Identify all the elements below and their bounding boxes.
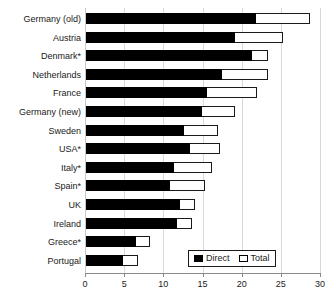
gridline-25 — [281, 8, 282, 273]
bar-direct-spain — [85, 180, 170, 191]
bar-direct-germany-new — [85, 106, 202, 117]
bar-row — [85, 180, 320, 191]
x-tick-label-15: 15 — [197, 279, 207, 290]
category-label-france: France — [53, 88, 81, 99]
bar-direct-austria — [85, 32, 235, 43]
category-label-denmark: Denmark* — [41, 51, 81, 62]
bar-row — [85, 106, 320, 117]
bar-row — [85, 13, 320, 24]
x-tick-label-30: 30 — [315, 279, 325, 290]
bar-row — [85, 162, 320, 173]
x-tick-label-0: 0 — [82, 279, 87, 290]
x-tick-label-10: 10 — [158, 279, 168, 290]
category-label-austria: Austria — [53, 33, 81, 44]
gridline-20 — [242, 8, 243, 273]
bar-direct-netherlands — [85, 69, 222, 80]
plot-area — [85, 8, 320, 273]
x-tick-mark-5 — [124, 273, 125, 277]
gridline-15 — [203, 8, 204, 273]
x-tick-mark-10 — [163, 273, 164, 277]
bar-row — [85, 143, 320, 154]
category-label-greece: Greece* — [48, 237, 81, 248]
y-axis-line — [85, 8, 86, 273]
bar-direct-germany-old — [85, 13, 256, 24]
category-label-spain: Spain* — [54, 181, 81, 192]
category-label-usa: USA* — [59, 144, 81, 155]
x-tick-mark-0 — [85, 273, 86, 277]
legend-label-total: Total — [251, 253, 270, 264]
gridline-30 — [320, 8, 321, 273]
horizontal-bar-chart: 051015202530 Germany (old)AustriaDenmark… — [0, 0, 334, 305]
category-label-netherlands: Netherlands — [32, 70, 81, 81]
x-tick-mark-20 — [242, 273, 243, 277]
bar-direct-portugal — [85, 255, 123, 266]
category-label-portugal: Portugal — [47, 256, 81, 267]
bar-direct-sweden — [85, 125, 184, 136]
bar-direct-ireland — [85, 218, 177, 229]
bar-direct-greece — [85, 236, 136, 247]
bar-direct-uk — [85, 199, 180, 210]
bar-row — [85, 69, 320, 80]
category-label-uk: UK — [68, 200, 81, 211]
gridline-10 — [163, 8, 164, 273]
bar-direct-usa — [85, 143, 190, 154]
bar-row — [85, 199, 320, 210]
bar-row — [85, 125, 320, 136]
bar-direct-france — [85, 87, 207, 98]
bar-row — [85, 236, 320, 247]
bar-direct-italy — [85, 162, 174, 173]
legend-label-direct: Direct — [206, 253, 230, 264]
legend-item-direct: Direct — [194, 253, 230, 264]
bar-row — [85, 32, 320, 43]
bar-direct-denmark — [85, 50, 252, 61]
chart-legend: Direct Total — [188, 250, 276, 267]
category-label-germany-old: Germany (old) — [23, 14, 81, 25]
x-tick-mark-15 — [203, 273, 204, 277]
x-tick-mark-30 — [320, 273, 321, 277]
x-tick-label-25: 25 — [276, 279, 286, 290]
bar-row — [85, 218, 320, 229]
category-label-italy: Italy* — [61, 163, 81, 174]
category-label-germany-new: Germany (new) — [19, 107, 81, 118]
legend-swatch-total-icon — [239, 255, 248, 262]
bar-row — [85, 50, 320, 61]
category-label-sweden: Sweden — [48, 126, 81, 137]
x-tick-mark-25 — [281, 273, 282, 277]
legend-swatch-direct-icon — [194, 255, 203, 262]
legend-item-total: Total — [239, 253, 270, 264]
gridline-5 — [124, 8, 125, 273]
x-tick-label-20: 20 — [237, 279, 247, 290]
bar-row — [85, 87, 320, 98]
x-tick-label-5: 5 — [122, 279, 127, 290]
category-label-ireland: Ireland — [53, 219, 81, 230]
